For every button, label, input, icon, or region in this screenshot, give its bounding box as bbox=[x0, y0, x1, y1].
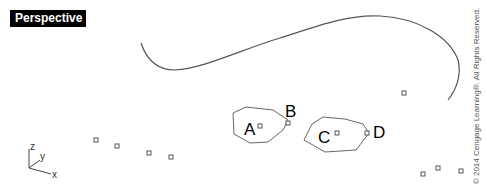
point-marker[interactable] bbox=[459, 169, 463, 173]
point-marker[interactable] bbox=[421, 172, 425, 176]
point-marker[interactable] bbox=[436, 166, 440, 170]
copyright-notice: © 2014 Cengage Learning®. All Rights Res… bbox=[472, 8, 481, 184]
axis-z-label: z bbox=[30, 141, 35, 152]
spline-curve[interactable] bbox=[141, 16, 459, 100]
label-b: B bbox=[285, 102, 296, 121]
label-a: A bbox=[244, 120, 256, 139]
point-marker[interactable] bbox=[94, 138, 98, 142]
point-marker[interactable] bbox=[147, 151, 151, 155]
viewport-canvas[interactable]: A B C D z y x bbox=[0, 0, 487, 192]
point-marker[interactable] bbox=[115, 144, 119, 148]
point-marker-a[interactable] bbox=[258, 124, 262, 128]
label-c: C bbox=[318, 128, 330, 147]
point-marker-d[interactable] bbox=[365, 131, 369, 135]
point-marker-c[interactable] bbox=[335, 131, 339, 135]
point-marker-b[interactable] bbox=[286, 121, 290, 125]
point-marker[interactable] bbox=[402, 91, 406, 95]
point-marker[interactable] bbox=[169, 155, 173, 159]
axis-x-label: x bbox=[52, 169, 57, 180]
label-d: D bbox=[373, 123, 385, 142]
axis-y-label: y bbox=[40, 151, 45, 162]
